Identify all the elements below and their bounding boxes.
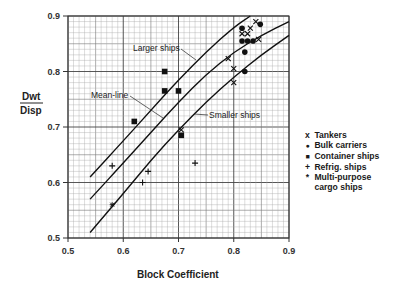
legend-symbol-icon: + <box>303 162 312 172</box>
container-ship-point <box>162 69 168 75</box>
bulk-carrier-point <box>242 69 248 75</box>
legend-label: Refrig. ships <box>312 162 366 172</box>
container-ship-point <box>132 119 138 125</box>
container-ship-point <box>162 88 168 94</box>
y-tick-label: 0.8 <box>47 67 60 77</box>
legend-item: ● Bulk carriers <box>303 140 379 151</box>
x-tick-label: 0.9 <box>283 246 296 256</box>
tanker-point <box>245 31 250 36</box>
legend-symbol-icon: x <box>303 130 312 140</box>
container-ship-point <box>178 133 184 139</box>
legend-item: x Tankers <box>303 130 379 140</box>
legend-symbol-icon: ● <box>303 141 312 151</box>
legend: x Tankers● Bulk carriers■ Container ship… <box>303 130 379 192</box>
legend-label: Tankers <box>312 130 347 140</box>
bulk-carrier-point <box>239 25 245 31</box>
legend-item: * Multi-purpose <box>303 172 379 182</box>
y-tick-label: 0.5 <box>47 233 60 243</box>
x-tick-label: 0.8 <box>227 246 240 256</box>
bulk-carrier-point <box>257 22 263 28</box>
x-tick-label: 0.5 <box>62 246 75 256</box>
legend-label: Bulk carriers <box>312 140 367 150</box>
legend-label: Container ships <box>312 151 379 161</box>
y-axis-label-bottom: Disp <box>20 105 42 116</box>
refrig-ship-point <box>192 160 198 166</box>
tanker-point <box>240 31 245 36</box>
legend-item: + Refrig. ships <box>303 162 379 172</box>
legend-item: cargo ships <box>303 182 379 192</box>
bulk-carrier-point <box>239 38 245 44</box>
legend-label: cargo ships <box>312 182 363 192</box>
multipurpose-ship-point <box>110 202 115 207</box>
x-axis-label: Block Coefficient <box>137 269 219 280</box>
legend-label: Multi-purpose <box>312 172 371 182</box>
bulk-carrier-point <box>245 38 251 44</box>
x-tick-label: 0.6 <box>117 246 130 256</box>
y-tick-label: 0.9 <box>47 11 60 21</box>
legend-item: ■ Container ships <box>303 151 379 162</box>
annotation-larger-ships: Larger ships <box>133 43 180 53</box>
legend-symbol-icon: * <box>303 172 312 182</box>
bulk-carrier-point <box>250 38 256 44</box>
bulk-carrier-point <box>242 49 248 55</box>
refrig-ship-point <box>140 180 146 186</box>
refrig-ship-point <box>145 168 151 174</box>
annotation-mean-line: Mean-line <box>91 90 129 100</box>
y-axis-label-top: Dwt <box>22 91 41 102</box>
annotation-smaller-ships: Smaller ships <box>209 110 260 120</box>
y-tick-label: 0.6 <box>47 178 60 188</box>
x-tick-label: 0.7 <box>172 246 185 256</box>
y-tick-label: 0.7 <box>47 122 60 132</box>
refrig-ship-point <box>109 163 115 169</box>
container-ship-point <box>176 88 182 94</box>
legend-symbol-icon: ■ <box>303 152 312 162</box>
